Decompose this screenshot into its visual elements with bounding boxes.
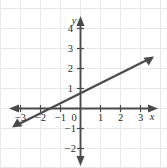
y-tick-label-2: 2 (68, 63, 73, 74)
y-axis-name-label: y (71, 15, 77, 26)
y-tick-label--1: −1 (65, 123, 76, 134)
x-tick-label--3: −3 (15, 112, 26, 123)
y-tick-label-1: 1 (68, 83, 73, 94)
x-tick-label-1: 1 (98, 112, 103, 123)
x-tick-label-2: 2 (118, 112, 123, 123)
x-tick-label-0: 0 (71, 112, 76, 123)
x-tick-label--2: −2 (35, 112, 46, 123)
coordinate-plane-figure: −3 −2 −1 0 1 2 3 4 3 2 1 −1 −2 y x (0, 0, 167, 168)
y-tick-label--2: −2 (65, 143, 76, 154)
x-tick-label-3: 3 (138, 112, 143, 123)
x-tick-label--1: −1 (55, 112, 66, 123)
y-tick-label-3: 3 (68, 43, 73, 54)
x-axis-name-label: x (149, 111, 155, 122)
graph-canvas: −3 −2 −1 0 1 2 3 4 3 2 1 −1 −2 y x (0, 0, 167, 168)
